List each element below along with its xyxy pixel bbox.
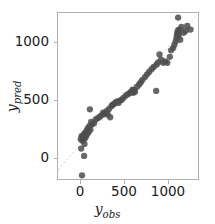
- data-point: [81, 153, 87, 159]
- y-axis-label-sub: pred: [12, 80, 23, 104]
- data-point: [175, 14, 181, 20]
- data-point: [153, 88, 159, 94]
- x-axis-label-sub: obs: [103, 209, 121, 220]
- scatter-canvas: [58, 13, 198, 179]
- data-point: [79, 172, 85, 178]
- y-tick-mark-0: [54, 158, 58, 159]
- y-axis-label: ypred: [5, 80, 24, 112]
- y-tick-label-500: 500: [23, 93, 49, 107]
- data-point: [87, 106, 93, 112]
- x-tick-label-1000: 1000: [151, 185, 185, 199]
- data-point: [177, 37, 183, 43]
- plot-area: [57, 12, 199, 180]
- x-axis-label: yobs: [0, 201, 215, 220]
- y-axis-label-var: y: [5, 104, 21, 112]
- data-point: [130, 90, 136, 96]
- scatter-plot-figure: 1000 500 0 0 500 1000 yobs ypred: [0, 0, 215, 224]
- y-tick-mark-1000: [54, 42, 58, 43]
- x-tick-label-500: 500: [111, 185, 137, 199]
- y-axis-label-container: ypred: [2, 0, 26, 192]
- y-tick-label-0: 0: [40, 151, 49, 165]
- data-points-group: [78, 14, 194, 178]
- x-tick-label-0: 0: [76, 185, 85, 199]
- y-tick-mark-500: [54, 100, 58, 101]
- data-point: [164, 60, 170, 66]
- data-point: [167, 54, 173, 60]
- x-axis-label-var: y: [95, 201, 103, 217]
- data-point: [107, 114, 113, 120]
- data-point: [187, 26, 193, 32]
